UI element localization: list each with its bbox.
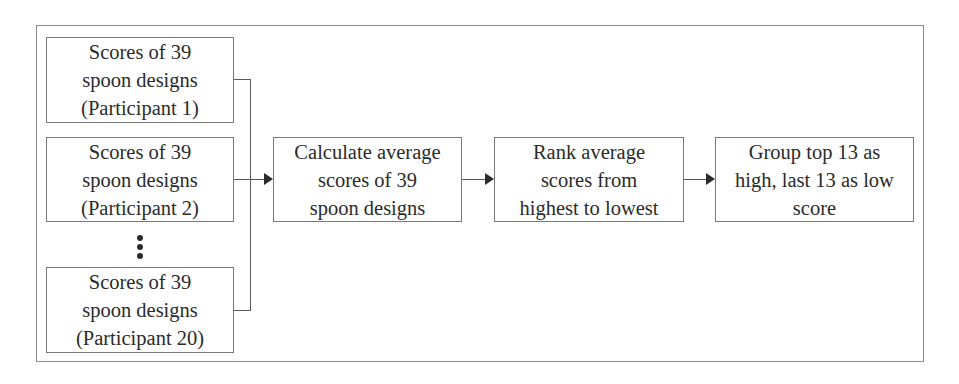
connector-rank-to-group xyxy=(684,179,706,180)
calculate-average-box: Calculate average scores of 39 spoon des… xyxy=(273,137,462,222)
rank-average-label: Rank average scores from highest to lowe… xyxy=(520,138,659,222)
calculate-average-label: Calculate average scores of 39 spoon des… xyxy=(294,138,440,222)
rank-average-box: Rank average scores from highest to lowe… xyxy=(494,137,684,222)
participant-2-scores-label: Scores of 39 spoon designs (Participant … xyxy=(81,138,199,222)
arrow-to-calc-icon xyxy=(264,173,273,185)
participant-1-scores-label: Scores of 39 spoon designs (Participant … xyxy=(81,38,199,122)
connector-bus xyxy=(250,79,251,311)
participant-20-scores-label: Scores of 39 spoon designs (Participant … xyxy=(76,268,204,352)
connector-p2-to-calc xyxy=(234,179,264,180)
participant-20-scores-box: Scores of 39 spoon designs (Participant … xyxy=(46,267,234,353)
group-scores-label: Group top 13 as high, last 13 as low sco… xyxy=(735,138,894,222)
participant-2-scores-box: Scores of 39 spoon designs (Participant … xyxy=(46,137,234,222)
connector-p20 xyxy=(234,310,250,311)
group-scores-box: Group top 13 as high, last 13 as low sco… xyxy=(715,137,914,222)
arrow-to-group-icon xyxy=(706,173,715,185)
connector-calc-to-rank xyxy=(462,179,485,180)
connector-p1 xyxy=(234,79,250,80)
participant-1-scores-box: Scores of 39 spoon designs (Participant … xyxy=(46,37,234,123)
arrow-to-rank-icon xyxy=(485,173,494,185)
